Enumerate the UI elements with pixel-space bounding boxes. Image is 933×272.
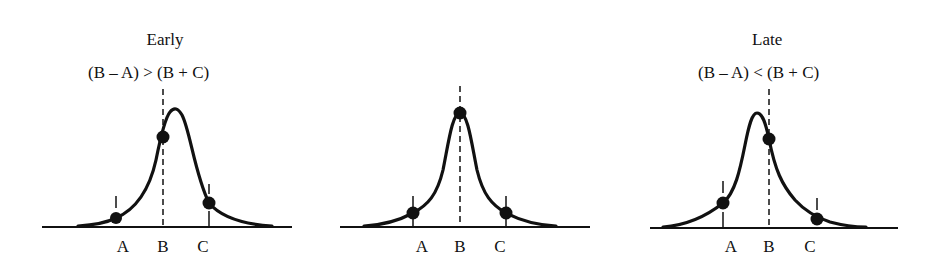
point-b [454,107,467,120]
label-c: C [197,237,208,257]
point-c [203,197,216,210]
label-a: A [416,237,428,257]
point-a [407,207,420,220]
label-a: A [117,237,129,257]
label-c: C [494,237,505,257]
panel-late-relation: (B – A) < (B + C) [698,63,819,83]
point-c [811,213,824,226]
panel-early-graphic [42,89,292,227]
panel-early-relation: (B – A) > (B + C) [88,63,209,83]
point-a [717,197,730,210]
panel-centered-graphic [340,86,590,227]
label-b: B [763,237,774,257]
point-b [157,131,170,144]
panel-late-graphic [650,89,898,228]
label-b: B [454,237,465,257]
label-a: A [725,237,737,257]
distribution-curve [663,113,866,227]
point-c [500,207,513,220]
panel-early-title: Early [135,30,195,50]
distribution-curve [78,109,272,226]
panel-late-title: Late [752,30,782,50]
point-a [110,212,122,224]
label-c: C [804,237,815,257]
label-b: B [157,237,168,257]
point-b [763,133,776,146]
